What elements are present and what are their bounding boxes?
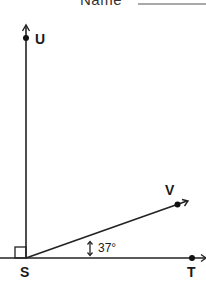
right-angle-marker-icon <box>15 247 26 258</box>
angle-measure: 37° <box>98 241 116 255</box>
label-s: S <box>20 264 29 280</box>
label-t: T <box>187 264 196 280</box>
ray-su <box>23 25 30 258</box>
label-u: U <box>35 31 45 47</box>
point-u <box>23 35 29 41</box>
angle-double-arrow-icon <box>88 242 93 256</box>
label-v: V <box>165 182 174 198</box>
geometry-diagram: Name U S T <box>0 0 206 298</box>
point-v <box>175 202 181 208</box>
point-t <box>189 255 195 261</box>
